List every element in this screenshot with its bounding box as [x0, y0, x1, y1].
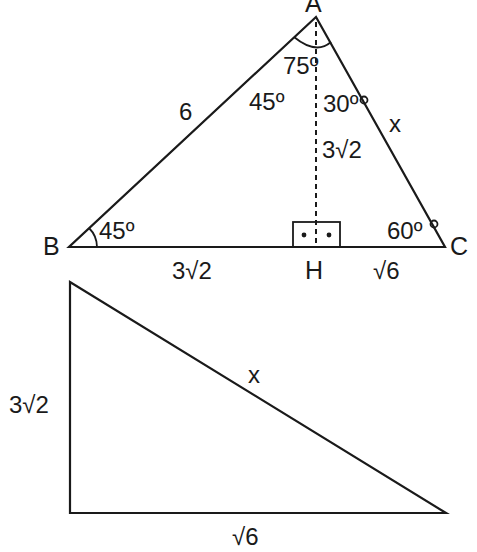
right-angle-dot-left	[302, 233, 307, 238]
angle-label-hac: 30º	[323, 90, 359, 117]
side-label-ab: 6	[179, 98, 192, 125]
right-angle-marker	[293, 222, 340, 247]
side-label-ac: x	[389, 110, 401, 137]
leg-label-horizontal: √6	[232, 523, 259, 550]
vertex-label-h: H	[305, 256, 323, 284]
side-label-hc: √6	[373, 257, 400, 284]
triangle-abc: A B C H 6 x 3√2 3√2 √6 75º 45º 30º 45º 6…	[43, 0, 468, 284]
side-label-bh: 3√2	[172, 257, 212, 284]
vertex-label-a: A	[305, 0, 322, 17]
side-label-ah: 3√2	[322, 136, 362, 163]
angle-label-a-total: 75º	[283, 52, 319, 79]
angle-label-c: 60º	[387, 217, 423, 244]
vertex-label-b: B	[43, 232, 60, 260]
hypotenuse-label: x	[248, 361, 260, 388]
angle-label-b: 45º	[99, 217, 135, 244]
vertex-label-c: C	[450, 232, 468, 260]
right-angle-dot-right	[327, 233, 332, 238]
angle-arc-a	[294, 37, 331, 47]
triangle-ahc-outline	[70, 282, 446, 513]
triangle-ahc: 3√2 √6 x	[9, 282, 446, 550]
leg-label-vertical: 3√2	[9, 391, 49, 418]
angle-label-bah: 45º	[249, 88, 285, 115]
geometry-diagram: A B C H 6 x 3√2 3√2 √6 75º 45º 30º 45º 6…	[0, 0, 477, 552]
angle-arc-b	[89, 228, 97, 247]
